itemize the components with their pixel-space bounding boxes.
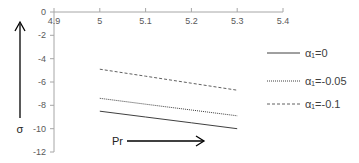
x-tick-label: 5.1 <box>139 16 152 26</box>
series-line-dashed <box>100 69 237 90</box>
sigma-arrow-annotation: σ <box>15 22 25 135</box>
legend-label: α₁=0 <box>305 47 328 59</box>
y-tick-label: -12 <box>33 147 46 157</box>
x-tick-label: 5.4 <box>277 16 290 26</box>
x-tick-labels: 4.9 5 5.1 5.2 5.3 5.4 <box>48 16 290 26</box>
y-tick-label: -8 <box>38 100 46 110</box>
y-tick-label: -6 <box>38 77 46 87</box>
sigma-label: σ <box>17 123 24 135</box>
legend: α₁=0 α₁=-0.05 α₁=-0.1 <box>267 47 347 110</box>
series-layer <box>100 69 237 129</box>
x-ticks <box>54 8 283 12</box>
x-tick-label: 5 <box>97 16 102 26</box>
y-tick-label: -4 <box>38 54 46 64</box>
x-tick-label: 5.3 <box>231 16 244 26</box>
legend-label: α₁=-0.05 <box>305 75 347 87</box>
y-tick-label: -2 <box>38 30 46 40</box>
chart-area: 0 -2 -4 -6 -8 -10 -12 4.9 5 5.1 5.2 5.3 … <box>0 0 359 163</box>
series-line-dotted <box>100 98 237 116</box>
y-tick-label: -10 <box>33 124 46 134</box>
series-line-solid <box>100 111 237 129</box>
x-tick-label: 4.9 <box>48 16 61 26</box>
y-tick-labels: 0 -2 -4 -6 -8 -10 -12 <box>33 7 46 157</box>
pr-label: Pr <box>112 135 123 147</box>
legend-label: α₁=-0.1 <box>305 98 340 110</box>
y-ticks <box>50 12 54 152</box>
x-tick-label: 5.2 <box>185 16 198 26</box>
pr-arrow-annotation: Pr <box>112 135 204 147</box>
y-tick-label: 0 <box>41 7 46 17</box>
